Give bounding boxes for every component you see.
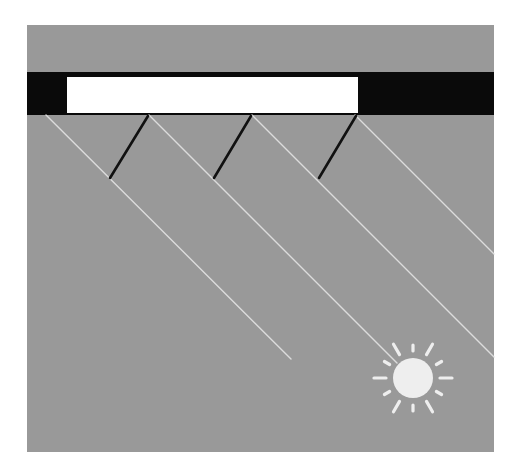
sun-disc — [393, 358, 433, 398]
window-opening — [67, 77, 358, 113]
diagram-canvas — [0, 0, 519, 472]
